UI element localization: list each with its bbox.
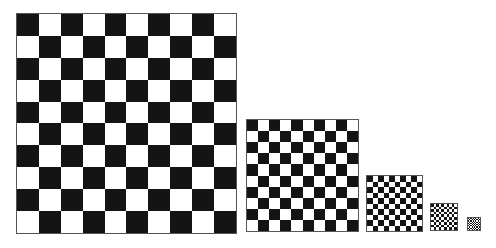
dark-square: [303, 220, 314, 231]
dark-square: [83, 167, 105, 189]
light-square: [126, 102, 148, 124]
light-square: [105, 167, 127, 189]
dark-square: [347, 176, 358, 187]
light-square: [303, 142, 314, 153]
dark-square: [314, 164, 325, 175]
dark-square: [170, 123, 192, 145]
light-square: [148, 211, 170, 233]
light-square: [291, 220, 302, 231]
light-square: [325, 164, 336, 175]
light-square: [214, 58, 236, 80]
light-square: [347, 187, 358, 198]
light-square: [39, 58, 61, 80]
light-square: [291, 198, 302, 209]
light-square: [170, 102, 192, 124]
light-square: [61, 36, 83, 58]
light-square: [347, 164, 358, 175]
dark-square: [336, 142, 347, 153]
dark-square: [61, 145, 83, 167]
light-square: [247, 131, 258, 142]
light-square: [280, 120, 291, 131]
light-square: [314, 198, 325, 209]
light-square: [126, 14, 148, 36]
light-square: [325, 142, 336, 153]
dark-square: [336, 187, 347, 198]
dark-square: [148, 58, 170, 80]
light-square: [336, 176, 347, 187]
checkerboard-minimal: [467, 217, 481, 231]
light-square: [17, 211, 39, 233]
light-square: [61, 167, 83, 189]
light-square: [192, 36, 214, 58]
dark-square: [280, 176, 291, 187]
dark-square: [170, 36, 192, 58]
dark-square: [280, 153, 291, 164]
dark-square: [17, 102, 39, 124]
light-square: [258, 120, 269, 131]
dark-square: [269, 120, 280, 131]
dark-square: [280, 220, 291, 231]
dark-square: [192, 189, 214, 211]
dark-square: [105, 189, 127, 211]
light-square: [269, 131, 280, 142]
light-square: [258, 209, 269, 220]
dark-square: [214, 167, 236, 189]
dark-square: [126, 167, 148, 189]
light-square: [303, 187, 314, 198]
checkerboard-large: [16, 13, 237, 234]
dark-square: [170, 211, 192, 233]
light-square: [314, 176, 325, 187]
dark-square: [170, 80, 192, 102]
dark-square: [17, 189, 39, 211]
dark-square: [347, 153, 358, 164]
dark-square: [291, 142, 302, 153]
light-square: [39, 14, 61, 36]
dark-square: [105, 14, 127, 36]
dark-square: [347, 220, 358, 231]
dark-square: [314, 187, 325, 198]
light-square: [105, 36, 127, 58]
light-square: [83, 102, 105, 124]
dark-square: [336, 209, 347, 220]
dark-square: [336, 120, 347, 131]
light-square: [347, 209, 358, 220]
dark-square: [269, 187, 280, 198]
dark-square: [291, 164, 302, 175]
dark-square: [83, 211, 105, 233]
light-square: [269, 153, 280, 164]
dark-square: [83, 36, 105, 58]
light-square: [247, 153, 258, 164]
dark-square: [105, 102, 127, 124]
light-square: [105, 123, 127, 145]
dark-square: [61, 14, 83, 36]
light-square: [170, 58, 192, 80]
dark-square: [247, 164, 258, 175]
light-square: [314, 131, 325, 142]
light-square: [17, 80, 39, 102]
light-square: [192, 211, 214, 233]
light-square: [83, 145, 105, 167]
light-square: [214, 145, 236, 167]
dark-square: [325, 131, 336, 142]
light-square: [39, 145, 61, 167]
dark-square: [148, 14, 170, 36]
dark-square: [314, 142, 325, 153]
light-square: [314, 220, 325, 231]
light-square: [291, 131, 302, 142]
light-square: [214, 14, 236, 36]
dark-square: [303, 176, 314, 187]
light-square: [148, 36, 170, 58]
light-square: [39, 189, 61, 211]
dark-square: [214, 80, 236, 102]
light-square: [126, 58, 148, 80]
dark-square: [17, 14, 39, 36]
dark-square: [126, 80, 148, 102]
dark-square: [126, 36, 148, 58]
dark-square: [192, 14, 214, 36]
light-square: [314, 153, 325, 164]
light-square: [83, 189, 105, 211]
light-square: [336, 220, 347, 231]
dark-square: [280, 131, 291, 142]
light-square: [303, 120, 314, 131]
light-square: [258, 142, 269, 153]
